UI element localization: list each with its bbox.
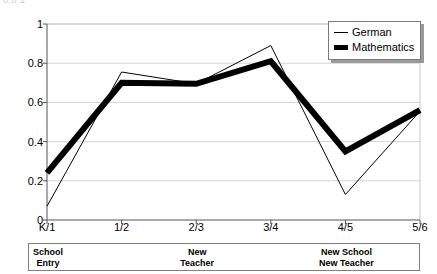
x-tick-label: 2/3 [189, 222, 204, 233]
x-tick-label: 3/4 [263, 222, 278, 233]
legend-label-german: German [352, 27, 392, 38]
y-tick-label: 0.2 [3, 175, 43, 186]
y-tick-label: 1 [3, 19, 43, 30]
x-tick-label: 5/6 [412, 222, 427, 233]
legend-item-mathematics[interactable]: Mathematics [333, 40, 414, 55]
legend-swatch-german-icon [333, 32, 348, 33]
y-tick-label: 0.4 [3, 136, 43, 147]
series-line-mathematics [47, 61, 420, 173]
y-axis-labels: 00.20.40.60.81 [0, 0, 43, 232]
annotation-band-cell: New Teacher [180, 247, 214, 269]
series-lines [47, 46, 420, 207]
annotation-band-cell: New School New Teacher [319, 247, 374, 269]
annotation-band: School EntryNew TeacherNew School New Te… [28, 243, 420, 271]
x-tick-label: 1/2 [114, 222, 129, 233]
y-tick-label: 0.6 [3, 97, 43, 108]
y-tick-marks [43, 24, 47, 220]
y-tick-label: 0.8 [3, 58, 43, 69]
legend-swatch-mathematics-icon [333, 45, 348, 50]
x-tick-label: K/1 [39, 222, 56, 233]
x-axis-labels: K/11/22/33/44/55/6 [0, 222, 437, 240]
annotation-band-cell: School Entry [33, 247, 63, 269]
legend-label-mathematics: Mathematics [352, 42, 414, 53]
legend-item-german[interactable]: German [333, 25, 414, 40]
x-tick-label: 4/5 [338, 222, 353, 233]
chart-legend: German Mathematics [328, 21, 421, 60]
chart-figure: 0.0 1 00.20.40.60.81 K/11/22/33/44/55/6 … [0, 0, 437, 274]
